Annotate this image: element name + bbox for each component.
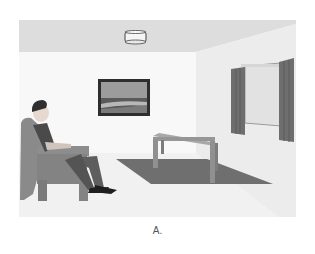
left-curtain — [231, 67, 245, 135]
seascape-painting — [98, 79, 150, 116]
room-illustration-figure: A. — [0, 0, 315, 254]
figure-caption: A. — [0, 225, 315, 236]
room-scene — [19, 20, 296, 217]
ceiling-lamp-icon — [125, 31, 146, 45]
right-curtain — [279, 58, 294, 142]
